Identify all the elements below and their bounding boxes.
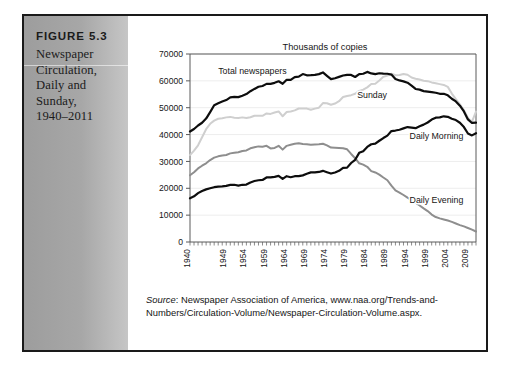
y-axis-tick-label: 40000 xyxy=(159,130,183,140)
x-axis-tick-label: 1989 xyxy=(379,249,389,268)
series-annotation-sunday: Sunday xyxy=(357,90,387,100)
series-annotation-daily-morning: Daily Morning xyxy=(410,131,464,141)
source-label: Source xyxy=(146,294,176,305)
figure-caption-line-4: Sunday, xyxy=(36,94,118,110)
x-axis-tick-label: 1999 xyxy=(420,249,430,268)
y-axis-tick-label: 20000 xyxy=(159,183,183,193)
series-line-daily-morning xyxy=(190,116,476,198)
x-axis-tick-label: 2009 xyxy=(460,249,470,268)
source-text: : Newspaper Association of America, www.… xyxy=(146,294,438,318)
y-axis-tick-label: 60000 xyxy=(159,76,183,86)
figure-caption-line-5: 1940–2011 xyxy=(36,109,118,125)
x-axis-tick-label: 1959 xyxy=(259,249,269,268)
figure-caption-line-1: Newspaper xyxy=(36,47,118,63)
series-annotation-total-newspapers: Total newspapers xyxy=(218,66,287,76)
x-axis-tick-label: 1969 xyxy=(299,249,309,268)
x-axis-tick-label: 1949 xyxy=(218,249,228,268)
x-axis-tick-label: 1974 xyxy=(319,249,329,268)
y-axis-tick-label: 30000 xyxy=(159,157,183,167)
series-line-sunday xyxy=(190,74,476,155)
figure-caption-line-3: Daily and xyxy=(36,78,118,94)
y-axis-tick-label: 10000 xyxy=(159,210,183,220)
x-axis-tick-label: 1954 xyxy=(238,249,248,268)
x-axis-tick-label: 1984 xyxy=(359,249,369,268)
x-axis-tick-label: 1979 xyxy=(339,249,349,268)
series-line-daily-evening xyxy=(190,143,476,231)
x-axis-tick-label: 1994 xyxy=(400,249,410,268)
chart-panel: Thousands of copies 01000020000300004000… xyxy=(128,16,486,350)
series-annotation-daily-evening: Daily Evening xyxy=(410,195,464,205)
y-axis-tick-label: 50000 xyxy=(159,103,183,113)
x-axis-tick-label: 2004 xyxy=(440,249,450,268)
source-note: Source: Newspaper Association of America… xyxy=(146,294,466,319)
figure-container: FIGURE 5.3 Newspaper Circulation, Daily … xyxy=(22,14,488,352)
x-axis-tick-label: 1964 xyxy=(279,249,289,268)
figure-number-label: FIGURE 5.3 xyxy=(36,30,118,42)
y-axis-tick-label: 70000 xyxy=(159,49,183,59)
figure-caption-panel: FIGURE 5.3 Newspaper Circulation, Daily … xyxy=(24,16,128,350)
line-chart-svg: 0100002000030000400005000060000700001940… xyxy=(128,16,486,296)
x-axis-tick-label: 1940 xyxy=(182,249,192,268)
figure-caption-line-2: Circulation, xyxy=(36,63,118,79)
y-axis-tick-label: 0 xyxy=(178,237,183,247)
